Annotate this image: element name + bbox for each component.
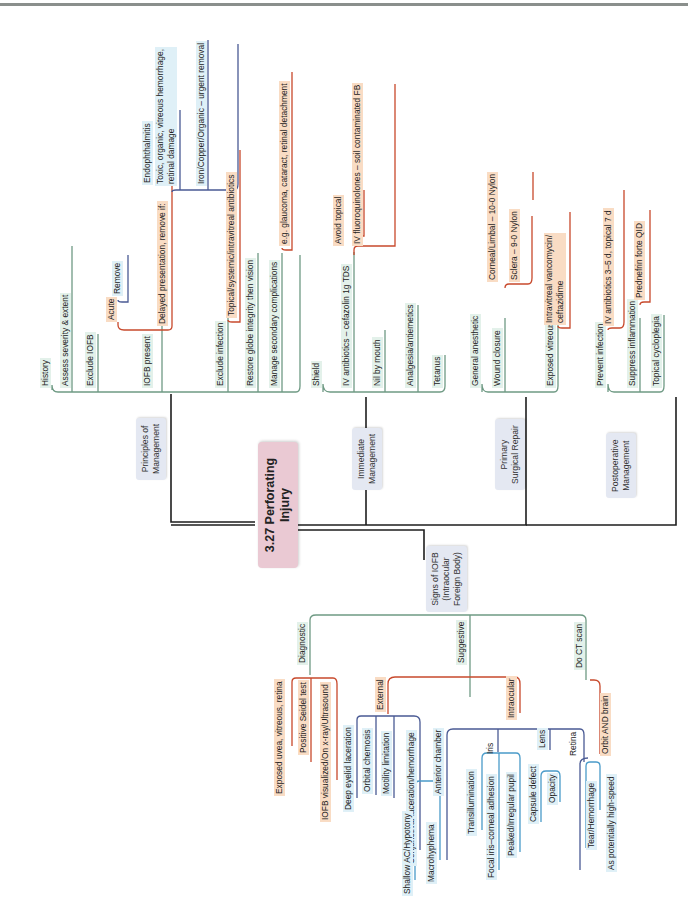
node-opacity: Opacity bbox=[547, 773, 558, 805]
central-topic: 3.27 Perforating Injury bbox=[258, 442, 298, 568]
node-macrohyphema: Macrohyphema bbox=[426, 822, 437, 884]
node-positive-seidel: Positive Seidel test bbox=[298, 680, 309, 755]
node-endophthalmitis: Endophthalmitis bbox=[142, 121, 153, 185]
node-remove: Remove bbox=[112, 261, 123, 296]
node-iron-copper: Iron/Copper/Organic – urgent removal bbox=[196, 41, 207, 186]
node-high-speed: As potentially high-speed bbox=[606, 774, 617, 872]
node-suggestive: Suggestive bbox=[456, 620, 467, 665]
node-intravitreal-vancomycin: Intravitreal vancomycin/ ceftazidime bbox=[544, 233, 566, 325]
node-iv-antibiotics: IV antibiotics – cefazolin 1g TDS bbox=[341, 264, 352, 388]
node-iris: Iris bbox=[485, 741, 496, 756]
node-prevent-infection: Prevent infection bbox=[595, 322, 606, 388]
node-orbital-chemosis: Orbital chemosis bbox=[362, 728, 373, 794]
node-retina: Retina bbox=[568, 730, 579, 758]
node-topical-cycloplegia: Topical cycloplegia bbox=[651, 314, 662, 388]
node-corneal-limbal: Corneal/Limbal – 10-0 Nylon bbox=[487, 172, 498, 282]
node-sclera: Sclera – 9-0 Nylon bbox=[509, 209, 520, 282]
node-external: External bbox=[375, 677, 386, 712]
category-label: Surgical Repair bbox=[510, 425, 521, 484]
node-analgesia: Analgesia/antiemetics bbox=[405, 303, 416, 388]
node-prednefrin: Prednefrin forte QID bbox=[634, 221, 645, 300]
category-label: Principles of bbox=[140, 424, 151, 474]
node-intravitreal-line2: ceftazidime bbox=[555, 235, 566, 323]
node-lens: Lens bbox=[537, 728, 548, 750]
node-focal-iris: Focal iris–corneal adhesion bbox=[486, 774, 497, 880]
category-principles: Principles of Management bbox=[136, 418, 166, 480]
node-intraocular: Intraocular bbox=[506, 676, 517, 720]
node-anterior-chamber: Anterior chamber bbox=[433, 728, 444, 796]
central-topic-line1: 3.27 Perforating bbox=[263, 458, 278, 552]
node-toxic-line1: Toxic, organic, vitreous hemorrhage, bbox=[155, 49, 166, 184]
node-do-ct-scan: Do CT scan bbox=[574, 622, 585, 670]
category-signs-iofb: Signs of IOFB (Intraocular Foreign Body) bbox=[426, 546, 467, 612]
category-label: Management bbox=[367, 434, 378, 484]
node-eg-glaucoma: e.g. glaucoma, cataract, retinal detachm… bbox=[279, 81, 290, 246]
node-iofb-present: IOFB present bbox=[142, 334, 153, 388]
node-history: History bbox=[40, 358, 51, 388]
node-deep-eyelid: Deep eyelid laceration bbox=[343, 725, 354, 812]
node-iofb-visualized: IOFB visualized/On x-ray/Ultrasound bbox=[320, 682, 331, 822]
node-nil-by-mouth: Nil by mouth bbox=[372, 337, 383, 388]
node-manage-secondary: Manage secondary complications bbox=[269, 260, 280, 388]
category-label: Immediate bbox=[356, 434, 367, 484]
node-suppress-inflammation: Suppress inflammation bbox=[627, 299, 638, 388]
node-exposed-uvea: Exposed uvea, vitreous, retina bbox=[274, 679, 285, 796]
central-topic-line2: Injury bbox=[278, 458, 293, 552]
node-exclude-infection: Exclude infection bbox=[215, 321, 226, 388]
category-label: Management bbox=[151, 424, 162, 474]
node-peaked-pupil: Peaked/Irregular pupil bbox=[506, 772, 517, 858]
node-orbit-brain: Orbit AND brain bbox=[600, 693, 611, 756]
node-delayed-presentation: Delayed presentation, remove if: bbox=[157, 201, 168, 326]
category-label: Signs of IOFB bbox=[430, 552, 441, 606]
category-label: Primary bbox=[499, 425, 510, 484]
node-acute: Acute bbox=[106, 297, 117, 322]
node-restore-globe: Restore globe integrity then vision bbox=[245, 258, 256, 388]
node-motility-limitation: Motility limitation bbox=[381, 731, 392, 796]
node-general-anesthetic: General anesthetic bbox=[470, 314, 481, 388]
category-primary: Primary Surgical Repair bbox=[495, 419, 525, 490]
node-iv-antibiotics-3-5d: IV antibiotics 3–5 d, topical 7 d bbox=[603, 208, 614, 326]
node-assess-severity: Assess severity & extent bbox=[60, 293, 71, 388]
node-transillumination: Transillumination bbox=[466, 769, 477, 836]
node-diagnostic: Diagnostic bbox=[297, 622, 308, 665]
node-shield: Shield bbox=[311, 361, 322, 388]
node-toxic-organic: Toxic, organic, vitreous hemorrhage, ret… bbox=[155, 47, 177, 186]
category-label: Postoperative bbox=[610, 439, 621, 492]
category-immediate: Immediate Management bbox=[352, 428, 382, 490]
node-tear-hemorrhage: Tear/Hemorrhage bbox=[586, 781, 597, 850]
node-exclude-iofb: Exclude IOFB bbox=[85, 332, 96, 388]
category-label: (Intraocular bbox=[441, 552, 452, 606]
node-wound-closure: Wound closure bbox=[492, 328, 503, 388]
node-tetanus: Tetanus bbox=[432, 355, 443, 388]
node-topical-antibiotics: Topical/systemic/intravitreal antibiotic… bbox=[226, 173, 237, 319]
category-postoperative: Postoperative Management bbox=[606, 433, 636, 498]
category-label: Management bbox=[621, 439, 632, 492]
node-toxic-line2: retinal damage bbox=[166, 49, 177, 184]
node-iv-fluoroquinolones: IV fluoroquinolones – soil contaminated … bbox=[352, 83, 363, 246]
node-avoid-topical: Avoid topical bbox=[333, 195, 344, 246]
node-exposed-vitreous: Exposed vitreous bbox=[545, 320, 556, 388]
node-intravitreal-line1: Intravitreal vancomycin/ bbox=[544, 235, 555, 323]
node-capsule-defect: Capsule defect bbox=[528, 764, 539, 824]
category-label: Foreign Body) bbox=[452, 552, 463, 606]
node-shallow-ac: Shallow AC/Hypotony bbox=[402, 811, 413, 896]
